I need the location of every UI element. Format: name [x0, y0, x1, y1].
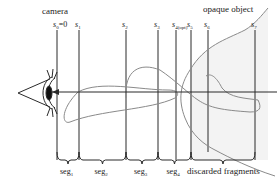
opaque-object-region	[190, 8, 268, 160]
segment-brace-2	[79, 152, 126, 164]
sample-label-4: s4(opt)	[172, 20, 188, 30]
discarded-fragments-label: discarded fragments	[187, 166, 260, 176]
sample-label-6: s6	[204, 20, 210, 30]
sample-label-2: s2	[122, 20, 128, 30]
segment-label-1: seg1	[60, 167, 74, 177]
ray-arrowhead-icon	[52, 89, 59, 95]
ray-segments-diagram: camera opaque object s0=0s1s2s3s4(opt)s5…	[0, 0, 280, 184]
segment-label-4: seg4	[167, 167, 181, 177]
segment-brace-3	[126, 152, 158, 164]
segment-label-3: seg3	[134, 167, 148, 177]
segment-labels: seg1seg2seg3seg4	[60, 167, 180, 177]
sample-labels: s0=0s1s2s3s4(opt)s5s6s7	[53, 20, 257, 30]
segment-brace-1	[57, 152, 79, 164]
camera-label: camera	[42, 6, 68, 16]
eye-icon	[18, 69, 57, 117]
segment-brace-4	[158, 152, 191, 164]
sample-label-1: s1	[75, 20, 81, 30]
sample-label-3: s3	[154, 20, 160, 30]
segment-label-2: seg2	[95, 167, 109, 177]
sample-label-0: s0=0	[53, 20, 67, 30]
opaque-object-label: opaque object	[203, 4, 254, 14]
sample-label-5: s5	[187, 20, 193, 30]
